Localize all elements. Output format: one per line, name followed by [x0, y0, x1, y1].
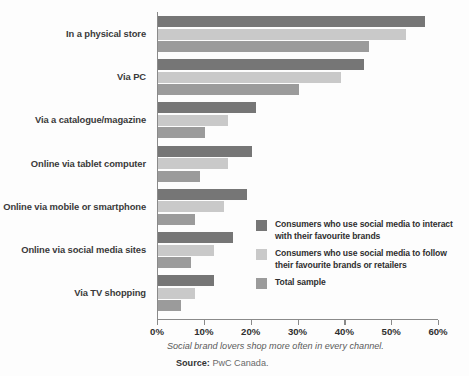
- x-axis-tick-label: 50%: [382, 326, 401, 337]
- legend-swatch-icon: [256, 220, 267, 231]
- x-axis-tick: [298, 320, 299, 325]
- bar: [158, 245, 214, 256]
- x-axis-tick: [157, 320, 158, 325]
- category-label: In a physical store: [0, 29, 146, 39]
- bar: [158, 115, 228, 126]
- chart-source: Source: PwC Canada.: [176, 358, 269, 368]
- x-axis-tick: [204, 320, 205, 325]
- x-axis-tick: [344, 320, 345, 325]
- category-label: Via PC: [0, 72, 146, 82]
- x-axis-tick: [438, 320, 439, 325]
- bar: [158, 201, 224, 212]
- x-axis-tick-label: 0%: [150, 326, 164, 337]
- category-label: Via TV shopping: [0, 288, 146, 298]
- legend-swatch-icon: [256, 278, 267, 289]
- bar: [158, 59, 364, 70]
- bar-chart-plot: In a physical storeVia PCVia a catalogue…: [0, 0, 469, 376]
- bar: [158, 84, 299, 95]
- chart-figure: In a physical storeVia PCVia a catalogue…: [0, 0, 469, 376]
- x-axis-tick-label: 10%: [194, 326, 213, 337]
- bar: [158, 29, 406, 40]
- x-axis-tick-label: 30%: [288, 326, 307, 337]
- source-label: Source:: [176, 358, 210, 368]
- legend-item-label: Consumers who use social media to follow…: [275, 248, 466, 271]
- category-label: Via a catalogue/magazine: [0, 115, 146, 125]
- category-label: Online via mobile or smartphone: [0, 202, 146, 212]
- x-axis-tick: [251, 320, 252, 325]
- x-axis-tick-label: 40%: [335, 326, 354, 337]
- legend-item: Consumers who use social media to follow…: [256, 248, 466, 271]
- bar: [158, 275, 214, 286]
- legend-item-label: Consumers who use social media to intera…: [275, 219, 466, 242]
- bar: [158, 288, 195, 299]
- bar: [158, 158, 228, 169]
- y-axis-line: [157, 12, 158, 320]
- category-axis-labels: In a physical storeVia PCVia a catalogue…: [0, 14, 152, 318]
- category-label: Online via social media sites: [0, 245, 146, 255]
- bar: [158, 300, 181, 311]
- bar: [158, 214, 195, 225]
- bar: [158, 171, 200, 182]
- bar: [158, 257, 191, 268]
- bar: [158, 232, 233, 243]
- chart-caption: Social brand lovers shop more often in e…: [167, 341, 384, 351]
- bar: [158, 16, 425, 27]
- source-value: PwC Canada.: [212, 358, 268, 368]
- chart-legend: Consumers who use social media to intera…: [256, 219, 466, 295]
- x-axis-tick-label: 60%: [428, 326, 447, 337]
- category-label: Online via tablet computer: [0, 159, 146, 169]
- bar: [158, 127, 205, 138]
- bar: [158, 41, 369, 52]
- x-axis-tick-label: 20%: [241, 326, 260, 337]
- legend-item: Consumers who use social media to intera…: [256, 219, 466, 242]
- legend-item-label: Total sample: [275, 277, 326, 289]
- legend-swatch-icon: [256, 249, 267, 260]
- legend-item: Total sample: [256, 277, 466, 289]
- bar: [158, 102, 256, 113]
- x-axis-tick: [391, 320, 392, 325]
- bar: [158, 146, 252, 157]
- bar: [158, 189, 247, 200]
- bar: [158, 72, 341, 83]
